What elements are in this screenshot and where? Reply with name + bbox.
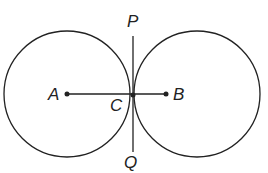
label-b: B [173, 85, 184, 104]
point-a [65, 92, 70, 97]
label-q: Q [124, 153, 137, 172]
label-c: C [110, 96, 123, 115]
label-p: P [127, 12, 139, 31]
tangent-circles-diagram: P A B C Q [0, 0, 268, 173]
label-a: A [47, 85, 59, 104]
point-b [164, 92, 169, 97]
point-c [131, 93, 136, 98]
